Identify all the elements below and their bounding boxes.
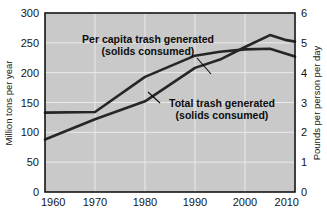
annotation-total-trash-line2: (solids consumed) bbox=[176, 109, 269, 121]
chart-figure: 050100150200250300 0123456 1960197019801… bbox=[0, 0, 327, 215]
left-tick-label: 150 bbox=[21, 97, 39, 109]
left-tick-label: 0 bbox=[33, 186, 39, 198]
right-axis-title: Pounds per person per day bbox=[311, 45, 322, 160]
left-tick-label: 250 bbox=[21, 37, 39, 49]
right-tick-label: 6 bbox=[301, 7, 307, 19]
annotation-per-capita-line2: (solids consumed) bbox=[102, 45, 195, 57]
right-tick-label: 4 bbox=[301, 67, 307, 79]
right-tick-label: 3 bbox=[301, 97, 307, 109]
left-tick-label: 100 bbox=[21, 126, 39, 138]
x-tick-label: 1990 bbox=[183, 196, 207, 208]
left-axis-title: Million tons per year bbox=[3, 60, 14, 145]
left-tick-label: 300 bbox=[21, 7, 39, 19]
left-tick-label: 50 bbox=[27, 156, 39, 168]
x-tick-label: 1980 bbox=[133, 196, 157, 208]
x-tick-label: 2010 bbox=[275, 196, 299, 208]
x-tick-label: 2000 bbox=[233, 196, 257, 208]
annotation-per-capita-line1: Per capita trash generated bbox=[82, 33, 214, 45]
right-tick-label: 5 bbox=[301, 37, 307, 49]
right-tick-label: 2 bbox=[301, 126, 307, 138]
right-tick-label: 1 bbox=[301, 156, 307, 168]
annotation-total-trash-line1: Total trash generated bbox=[169, 97, 275, 109]
trash-generation-line-chart: 050100150200250300 0123456 1960197019801… bbox=[0, 0, 327, 215]
left-tick-label: 200 bbox=[21, 67, 39, 79]
right-tick-label: 0 bbox=[301, 186, 307, 198]
x-tick-label: 1960 bbox=[41, 196, 65, 208]
x-tick-label: 1970 bbox=[83, 196, 107, 208]
